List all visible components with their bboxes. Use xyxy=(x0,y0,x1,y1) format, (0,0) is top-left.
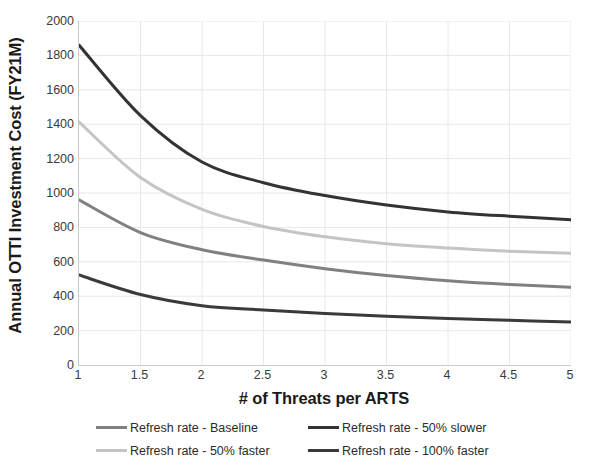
plot-area xyxy=(78,21,571,366)
x-axis-tick-label: 1 xyxy=(75,368,82,382)
plot-svg xyxy=(79,21,571,365)
legend-item[interactable]: Refresh rate - 50% slower xyxy=(308,421,526,435)
line-chart: Annual OTTI Investment Cost (FY21M) 0200… xyxy=(0,0,592,475)
x-axis-title: # of Threats per ARTS xyxy=(78,389,570,408)
x-axis-tick-label: 1.5 xyxy=(131,368,148,382)
x-axis-tick-label: 4.5 xyxy=(500,368,517,382)
y-axis-tick-label: 200 xyxy=(32,324,74,338)
y-axis-tick-label: 0 xyxy=(32,358,74,372)
x-axis-tick-label: 2.5 xyxy=(254,368,271,382)
y-axis-tick-label: 800 xyxy=(32,220,74,234)
legend-item[interactable]: Refresh rate - Baseline xyxy=(96,421,308,435)
y-axis-tick-labels: 0200400600800100012001400160018002000 xyxy=(28,0,74,475)
legend-item-label: Refresh rate - 100% faster xyxy=(342,444,489,458)
y-axis-tick-label: 1000 xyxy=(32,186,74,200)
legend-item-label: Refresh rate - 50% slower xyxy=(342,421,487,435)
y-axis-tick-label: 1400 xyxy=(32,117,74,131)
legend-item-label: Refresh rate - 50% faster xyxy=(130,444,270,458)
legend-item[interactable]: Refresh rate - 50% faster xyxy=(96,444,308,458)
y-axis-title: Annual OTTI Investment Cost (FY21M) xyxy=(0,0,30,370)
legend-item[interactable]: Refresh rate - 100% faster xyxy=(308,444,526,458)
y-axis-tick-label: 400 xyxy=(32,289,74,303)
legend-swatch-icon xyxy=(308,426,339,429)
x-axis-tick-labels: 11.522.533.544.55 xyxy=(78,368,570,388)
y-axis-tick-label: 1800 xyxy=(32,48,74,62)
legend-item-label: Refresh rate - Baseline xyxy=(130,421,258,435)
legend-swatch-icon xyxy=(96,426,127,429)
y-axis-tick-label: 1200 xyxy=(32,152,74,166)
y-axis-tick-label: 2000 xyxy=(32,14,74,28)
legend-swatch-icon xyxy=(96,449,127,452)
chart-legend: Refresh rate - BaselineRefresh rate - 50… xyxy=(96,416,526,462)
x-axis-tick-label: 3 xyxy=(321,368,328,382)
y-axis-tick-label: 1600 xyxy=(32,83,74,97)
x-axis-tick-label: 3.5 xyxy=(377,368,394,382)
y-axis-tick-label: 600 xyxy=(32,255,74,269)
y-axis-title-label: Annual OTTI Investment Cost (FY21M) xyxy=(6,37,25,333)
x-axis-tick-label: 5 xyxy=(567,368,574,382)
x-axis-tick-label: 4 xyxy=(444,368,451,382)
x-axis-tick-label: 2 xyxy=(198,368,205,382)
legend-swatch-icon xyxy=(308,449,339,452)
